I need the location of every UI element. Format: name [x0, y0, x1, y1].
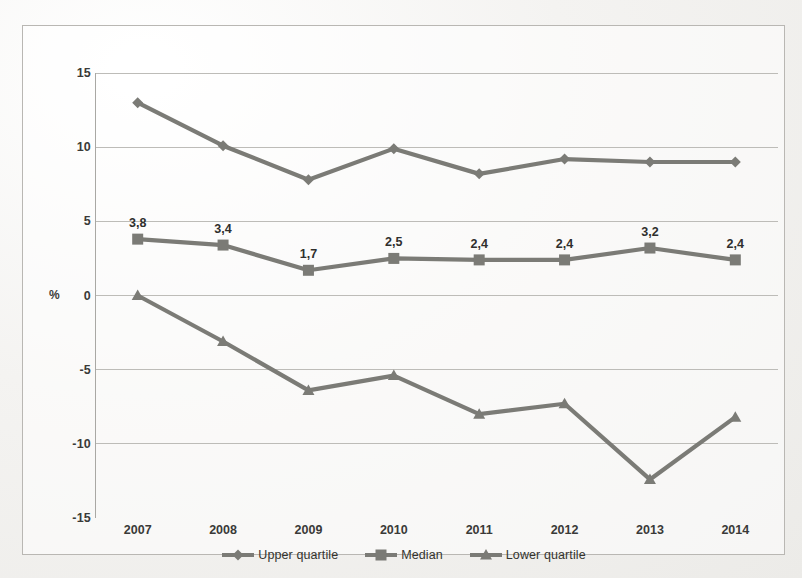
data-point-square — [730, 254, 741, 265]
y-tick-label: 0 — [84, 289, 91, 303]
legend-marker-diamond-icon — [221, 548, 255, 562]
x-tick-label: 2008 — [209, 523, 237, 537]
data-point-square — [388, 253, 399, 264]
series-line-2 — [138, 296, 736, 480]
series-line-0 — [138, 103, 736, 180]
y-tick-label: -15 — [72, 511, 91, 525]
data-point-square — [474, 254, 485, 265]
data-point-diamond — [388, 143, 399, 154]
legend-label: Median — [401, 548, 443, 562]
x-tick-label: 2011 — [466, 523, 493, 537]
chart-legend: Upper quartileMedianLower quartile — [23, 548, 784, 562]
data-point-diamond — [233, 550, 244, 561]
data-point-diamond — [559, 154, 570, 165]
chart-frame: 151050-5-10-15 % 3,83,41,72,52,42,43,22,… — [22, 25, 785, 555]
data-point-diamond — [644, 157, 655, 168]
data-point-square — [218, 240, 229, 251]
y-tick-label: 5 — [84, 214, 91, 228]
y-tick-label: -10 — [72, 437, 91, 451]
legend-marker-triangle-icon — [469, 548, 503, 562]
y-axis-title: % — [49, 288, 60, 302]
data-point-triangle — [132, 290, 144, 301]
data-point-square — [303, 265, 314, 276]
x-tick-label: 2007 — [124, 523, 152, 537]
x-tick-label: 2012 — [551, 523, 579, 537]
chart-svg — [95, 73, 778, 518]
data-point-square — [376, 550, 387, 561]
legend-marker-square-icon — [364, 548, 398, 562]
legend-label: Lower quartile — [506, 548, 586, 562]
x-tick-label: 2010 — [380, 523, 408, 537]
x-tick-label: 2013 — [636, 523, 664, 537]
legend-item[interactable]: Upper quartile — [221, 548, 338, 562]
x-axis-tick-labels: 20072008200920102011201220132014 — [95, 523, 778, 543]
x-tick-label: 2009 — [295, 523, 323, 537]
data-point-square — [644, 243, 655, 254]
x-tick-label: 2014 — [721, 523, 749, 537]
data-point-diamond — [730, 157, 741, 168]
y-tick-label: 10 — [77, 140, 91, 154]
legend-label: Upper quartile — [258, 548, 338, 562]
legend-item[interactable]: Lower quartile — [469, 548, 586, 562]
data-point-diamond — [303, 174, 314, 185]
data-point-square — [559, 254, 570, 265]
legend-item[interactable]: Median — [364, 548, 443, 562]
data-point-triangle — [729, 411, 741, 422]
data-point-square — [132, 234, 143, 245]
data-point-diamond — [474, 168, 485, 179]
plot-area — [95, 73, 778, 518]
y-tick-label: 15 — [77, 66, 91, 80]
y-tick-label: -5 — [79, 363, 91, 377]
